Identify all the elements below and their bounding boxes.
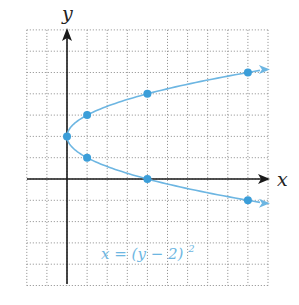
data-point [143,90,151,98]
data-point [244,69,252,77]
data-points [63,69,252,205]
data-point [244,196,252,204]
equation-exponent: 2 [187,243,194,254]
equation-base: x = (y − 2) [101,245,184,263]
y-axis-label: y [61,2,73,24]
x-axis-label: x [277,168,288,190]
parabola-chart: y x x = (y − 2) 2 [0,0,299,305]
data-point [83,154,91,162]
data-point [143,175,151,183]
data-point [83,111,91,119]
equation-label: x = (y − 2) 2 [101,243,195,263]
data-point [63,132,71,140]
